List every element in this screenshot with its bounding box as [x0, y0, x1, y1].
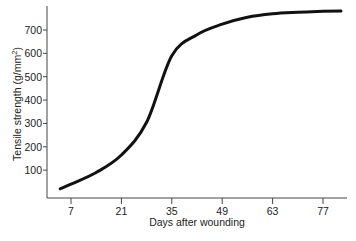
x-tick-label: 21: [116, 205, 128, 217]
y-tick-label: 700: [24, 24, 42, 36]
x-axis: 72135496377: [47, 198, 347, 217]
x-tick-label: 77: [317, 205, 329, 217]
y-tick-label: 500: [24, 71, 42, 83]
y-tick-label: 600: [24, 47, 42, 59]
y-tick-label: 300: [24, 117, 42, 129]
y-axis-title: Tensile strength (g/mm2): [10, 47, 23, 161]
x-tick-label: 63: [267, 205, 279, 217]
y-tick-label: 200: [24, 141, 42, 153]
tensile-strength-curve: [60, 11, 341, 189]
x-axis-title: Days after wounding: [149, 216, 245, 228]
y-axis: 100200300400500600700: [24, 6, 47, 198]
y-tick-label: 400: [24, 94, 42, 106]
x-tick-label: 7: [68, 205, 74, 217]
line-chart: 100200300400500600700 72135496377 Days a…: [0, 0, 356, 241]
y-tick-label: 100: [24, 164, 42, 176]
